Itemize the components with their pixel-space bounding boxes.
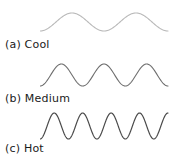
caption-hot: (c) Hot [5,142,44,155]
wave-row-medium: (b) Medium [0,55,175,105]
sine-wave-hot [40,108,175,148]
figure-canvas: (a) Cool (b) Medium (c) Hot [0,0,175,160]
caption-cool: (a) Cool [5,38,50,51]
caption-medium: (b) Medium [5,92,70,105]
sine-wave-medium [40,58,175,96]
sine-wave-cool [40,3,175,43]
wave-row-cool: (a) Cool [0,0,175,55]
wave-row-hot: (c) Hot [0,105,175,160]
